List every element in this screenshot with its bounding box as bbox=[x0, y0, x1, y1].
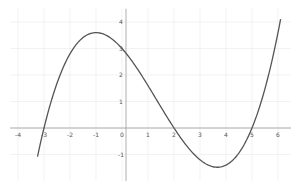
function-plot: -4-3-2-10123456-11234 bbox=[0, 0, 307, 184]
y-tick-label: 2 bbox=[119, 71, 123, 78]
x-tick-label: -4 bbox=[15, 131, 21, 138]
y-tick-label: 4 bbox=[119, 18, 123, 25]
axes bbox=[10, 9, 291, 181]
x-tick-label: 3 bbox=[198, 131, 202, 138]
y-tick-label: 1 bbox=[119, 98, 123, 105]
x-tick-label: 2 bbox=[172, 131, 176, 138]
tick-labels: -4-3-2-10123456-11234 bbox=[15, 18, 280, 158]
x-tick-label: 6 bbox=[276, 131, 280, 138]
grid-lines bbox=[10, 9, 291, 181]
x-tick-label: -2 bbox=[67, 131, 73, 138]
y-tick-label: -1 bbox=[118, 151, 124, 158]
x-tick-label: -1 bbox=[93, 131, 99, 138]
x-tick-label: 0 bbox=[120, 131, 124, 138]
x-tick-label: 1 bbox=[146, 131, 150, 138]
x-tick-label: 4 bbox=[224, 131, 228, 138]
function-curve bbox=[38, 19, 281, 167]
